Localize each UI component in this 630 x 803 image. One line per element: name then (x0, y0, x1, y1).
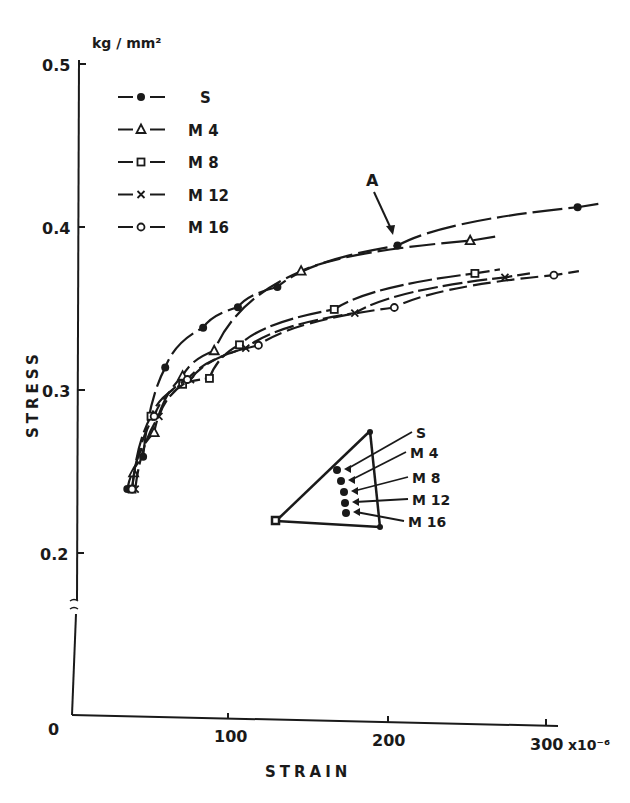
y-axis-line-lower (72, 614, 76, 715)
legend-marker-icon (137, 125, 146, 134)
gauge-dot (333, 466, 341, 474)
inset-edge (370, 431, 380, 527)
gauge-dot (337, 477, 345, 485)
y-tick-0-3: 0.3 (42, 382, 70, 401)
x-multiplier-label: x10⁻⁶ (568, 737, 610, 753)
data-point-marker (331, 306, 338, 313)
inset-label: M 12 (412, 492, 450, 508)
data-point-marker (210, 346, 219, 355)
y-tick-0-2: 0.2 (40, 545, 68, 564)
data-point-marker (206, 375, 213, 382)
x-axis-title: STRAIN (265, 763, 351, 781)
legend-marker-icon (137, 93, 145, 101)
x-tick-200: 200 (372, 731, 405, 750)
legend-label: M 4 (188, 122, 219, 140)
data-point-marker (129, 486, 136, 493)
inset-label: M 16 (408, 514, 446, 530)
inset-label: M 4 (410, 445, 439, 461)
data-point-marker (297, 266, 306, 275)
data-point-marker (574, 203, 582, 211)
curves (123, 203, 602, 493)
legend: SM 4M 8M 12M 16 (118, 89, 229, 237)
legend-label: S (200, 89, 211, 107)
data-point-marker (199, 324, 207, 332)
gauge-dot (341, 499, 349, 507)
data-point-marker (550, 272, 557, 279)
arrow-head-icon (352, 498, 359, 506)
series-m16 (129, 271, 579, 492)
inset-gauges: SM 4M 8M 12M 16 (333, 425, 450, 530)
y-axis-title: STRESS (24, 350, 42, 438)
legend-item-s: S (118, 89, 211, 107)
arrow-head-icon (351, 487, 358, 495)
inset-hypotenuse (276, 431, 370, 521)
inset-label: M 8 (412, 470, 441, 486)
legend-item-m12: M 12 (118, 187, 229, 205)
legend-label: M 8 (188, 154, 219, 172)
legend-marker-icon (138, 224, 145, 231)
data-point-marker (161, 364, 169, 372)
y-unit-label: kg / mm² (92, 35, 162, 51)
legend-label: M 16 (188, 219, 229, 237)
arrow-head-icon (353, 508, 360, 516)
stress-strain-chart: kg / mm² 0.5 0.4 0.3 0.2 0 100 200 300 x… (0, 0, 630, 803)
annotation-arrow (374, 192, 392, 231)
x-tick-100: 100 (214, 727, 247, 746)
annotation-a-label: A (366, 171, 379, 190)
data-point-marker (466, 236, 475, 245)
y-axis-line (77, 60, 79, 600)
data-point-marker (151, 413, 158, 420)
series-m4 (129, 236, 495, 477)
legend-item-m8: M 8 (118, 154, 219, 172)
legend-marker-icon (138, 159, 145, 166)
origin-label: 0 (48, 720, 59, 739)
inset-square-icon (272, 517, 279, 524)
legend-label: M 12 (188, 187, 229, 205)
arrow-head-icon (348, 476, 355, 484)
legend-marker-icon (138, 191, 145, 198)
axis-break-icon (70, 600, 78, 610)
inset-base (276, 521, 380, 527)
curve-line (127, 203, 602, 489)
gauge-dot (342, 509, 350, 517)
series-s (123, 203, 602, 493)
y-tick-0-4: 0.4 (42, 219, 70, 238)
gauge-dot (340, 488, 348, 496)
inset-label: S (416, 425, 426, 441)
y-tick-0-5: 0.5 (42, 56, 70, 75)
data-point-marker (236, 341, 243, 348)
x-tick-300: 300 (530, 735, 563, 754)
arrow-head-icon (386, 225, 395, 235)
curve-line (134, 237, 496, 473)
x-axis-line (72, 715, 558, 726)
data-point-marker (471, 270, 478, 277)
annotation-a: A (366, 171, 395, 235)
arrow-head-icon (344, 465, 351, 473)
legend-item-m16: M 16 (118, 219, 229, 237)
legend-item-m4: M 4 (118, 122, 219, 140)
data-point-marker (255, 342, 262, 349)
data-point-marker (184, 376, 191, 383)
data-point-marker (391, 304, 398, 311)
